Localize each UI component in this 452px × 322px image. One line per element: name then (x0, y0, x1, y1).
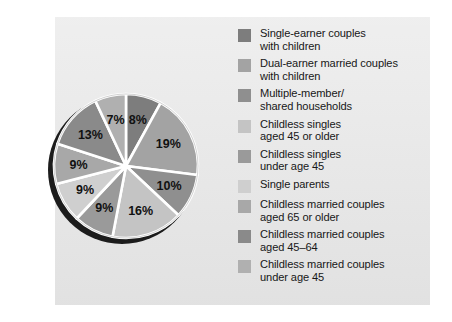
legend-swatch (238, 260, 251, 273)
legend-item: Single parents (238, 178, 443, 193)
legend-swatch (238, 120, 251, 133)
legend-swatch (238, 150, 251, 163)
legend-item: Childless singles aged 45 or older (238, 118, 443, 143)
legend-label: Childless singles aged 45 or older (260, 118, 341, 143)
legend-label: Childless married couples under age 45 (260, 258, 385, 283)
pie-slice-label: 9% (76, 183, 94, 197)
legend-swatch (238, 230, 251, 243)
pie-chart-svg: 8%19%10%16%9%9%9%13%7% (16, 56, 236, 282)
legend-swatch (238, 180, 251, 193)
pie-slice-label: 8% (129, 113, 147, 127)
pie-slice-label: 10% (156, 179, 181, 193)
legend-label: Single parents (260, 178, 330, 191)
pie-slice-label: 19% (156, 137, 181, 151)
pie-chart: 8%19%10%16%9%9%9%13%7% (16, 56, 236, 282)
legend-label: Multiple-member/ shared households (260, 87, 352, 112)
pie-slice-label: 9% (69, 158, 87, 172)
legend-swatch (238, 59, 251, 72)
legend-item: Childless married couples under age 45 (238, 258, 443, 283)
pie-slice-label: 16% (128, 204, 153, 218)
pie-slice-label: 7% (107, 113, 125, 127)
legend-item: Childless singles under age 45 (238, 148, 443, 173)
pie-slice-label: 13% (78, 128, 103, 142)
legend-item: Dual-earner married couples with childre… (238, 57, 443, 82)
legend-swatch (238, 200, 251, 213)
legend-label: Childless singles under age 45 (260, 148, 341, 173)
legend-item: Childless married couples aged 45–64 (238, 228, 443, 253)
legend-item: Multiple-member/ shared households (238, 87, 443, 112)
legend-label: Childless married couples aged 65 or old… (260, 198, 385, 223)
legend-item: Single-earner couples with children (238, 27, 443, 52)
legend-swatch (238, 29, 251, 42)
legend-label: Single-earner couples with children (260, 27, 366, 52)
legend-label: Childless married couples aged 45–64 (260, 228, 385, 253)
legend-item: Childless married couples aged 65 or old… (238, 198, 443, 223)
pie-slice-label: 9% (95, 201, 113, 215)
legend-label: Dual-earner married couples with childre… (260, 57, 398, 82)
legend-swatch (238, 89, 251, 102)
legend: Single-earner couples with childrenDual-… (238, 27, 443, 289)
figure-root: 8%19%10%16%9%9%9%13%7% Single-earner cou… (0, 0, 452, 322)
